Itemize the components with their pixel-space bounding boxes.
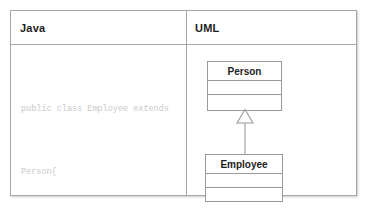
uml-attributes-compartment <box>208 81 281 95</box>
column-header-uml: UML <box>186 11 358 44</box>
uml-class-name-compartment: Person <box>208 62 281 81</box>
column-header-uml-label: UML <box>186 22 219 34</box>
uml-class-name-employee: Employee <box>220 159 267 170</box>
generalization-arrow-icon <box>227 109 263 157</box>
table-header-row: Java UML <box>11 11 356 45</box>
java-uml-comparison-table: Java UML public class Employee extends P… <box>10 10 357 196</box>
uml-class-box-employee: Employee <box>205 154 283 202</box>
uml-attributes-compartment <box>206 174 282 188</box>
uml-class-name-person: Person <box>228 66 262 77</box>
uml-operations-compartment <box>206 188 282 203</box>
code-line: Person{ <box>21 162 186 183</box>
column-header-java-label: Java <box>11 22 45 34</box>
java-code-cell: public class Employee extends Person{ ..… <box>11 45 186 195</box>
uml-class-name-compartment: Employee <box>206 155 282 174</box>
java-code-block: public class Employee extends Person{ ..… <box>11 45 186 211</box>
column-header-java: Java <box>11 11 186 44</box>
code-line: public class Employee extends <box>21 99 186 120</box>
uml-diagram-cell: Person Employee <box>187 45 358 195</box>
uml-class-box-person: Person <box>207 61 282 111</box>
uml-operations-compartment <box>208 95 281 110</box>
